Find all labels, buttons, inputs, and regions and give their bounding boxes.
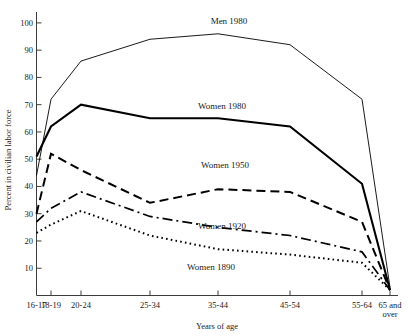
y-tick-label: 60 bbox=[25, 127, 34, 137]
y-tick-label: 90 bbox=[25, 45, 34, 55]
axes bbox=[37, 12, 399, 296]
x-tick-label: 35-44 bbox=[208, 300, 229, 310]
y-tick-label: 70 bbox=[25, 100, 34, 110]
y-tick-label: 40 bbox=[25, 181, 34, 191]
y-axis-ticks: 102030405060708090100 bbox=[20, 18, 41, 273]
y-tick-label: 100 bbox=[20, 18, 33, 28]
x-axis-ticks: 16-1718-1920-2425-3435-4445-5455-6465 an… bbox=[27, 291, 403, 320]
x-tick-label: 25-34 bbox=[140, 300, 161, 310]
y-axis-title: Percent in civilian labor force bbox=[3, 109, 13, 210]
series-label-women-1890: Women 1890 bbox=[187, 262, 236, 272]
y-tick-label: 20 bbox=[25, 236, 34, 246]
y-tick-label: 10 bbox=[25, 263, 34, 273]
line-chart: 102030405060708090100 16-1718-1920-2425-… bbox=[0, 0, 408, 336]
series-label-women-1950: Women 1950 bbox=[201, 160, 250, 170]
x-tick-label: 55-64 bbox=[352, 300, 373, 310]
x-tick-label: 65 andover bbox=[379, 300, 403, 319]
series-label-women-1920: Women 1920 bbox=[198, 221, 247, 231]
chart-container: 102030405060708090100 16-1718-1920-2425-… bbox=[0, 0, 408, 336]
x-axis-title: Years of age bbox=[196, 321, 238, 331]
y-tick-label: 30 bbox=[25, 209, 34, 219]
series-line-women-1920 bbox=[37, 192, 391, 290]
x-tick-label: 18-19 bbox=[41, 300, 61, 310]
y-tick-label: 80 bbox=[25, 72, 34, 82]
series-label-women-1980: Women 1980 bbox=[198, 101, 247, 111]
series-label-group: Men 1980Women 1980Women 1950Women 1920Wo… bbox=[187, 16, 250, 272]
series-label-men-1980: Men 1980 bbox=[211, 16, 248, 26]
y-tick-label: 50 bbox=[25, 154, 34, 164]
x-tick-label: 45-54 bbox=[280, 300, 301, 310]
x-tick-label: 20-24 bbox=[71, 300, 92, 310]
